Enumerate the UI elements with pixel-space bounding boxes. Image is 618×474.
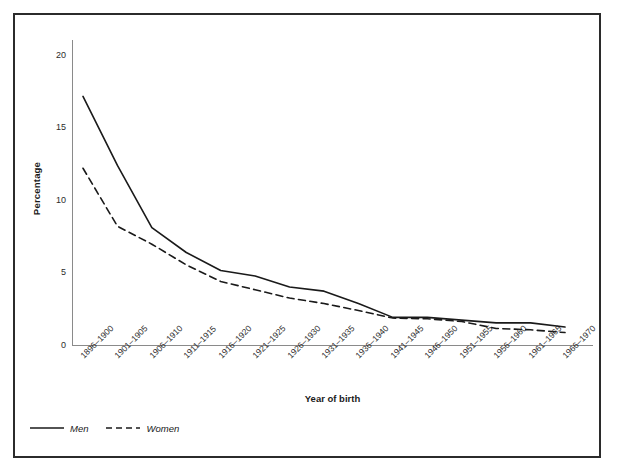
legend-key-solid-line-icon [30,424,64,432]
y-tick-10: 10 [40,196,66,205]
legend-item-men: Men [30,423,88,434]
figure: 20 15 10 5 0 Percentage 1896–19001901–19… [0,0,618,474]
legend-label-men: Men [70,423,88,434]
y-axis-title: Percentage [31,129,42,249]
plot-area [72,48,592,345]
legend: Men Women [30,420,179,436]
legend-label-women: Women [146,423,179,434]
series-line-men [83,96,565,327]
y-tick-15: 15 [40,123,66,132]
legend-item-women: Women [106,423,179,434]
legend-key-dashed-line-icon [106,424,140,432]
x-axis-title: Year of birth [72,393,593,404]
y-tick-5: 5 [40,268,66,277]
series-line-women [83,168,565,332]
y-tick-20: 20 [40,51,66,60]
series-svg [72,48,592,348]
